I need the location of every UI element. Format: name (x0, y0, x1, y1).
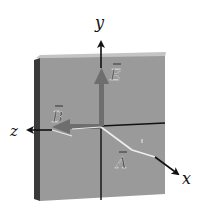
x-axis-label: x (182, 169, 191, 188)
svg-text:E: E (109, 66, 121, 84)
y-axis-label: y (94, 13, 105, 32)
em-wave-diagram: y z x E B A (0, 0, 204, 217)
svg-text:A: A (114, 154, 127, 172)
svg-text:B: B (51, 108, 63, 126)
b-label: B (51, 106, 63, 126)
z-axis-label: z (9, 122, 18, 140)
e-label: E (109, 64, 121, 84)
a-label: A (114, 152, 127, 172)
